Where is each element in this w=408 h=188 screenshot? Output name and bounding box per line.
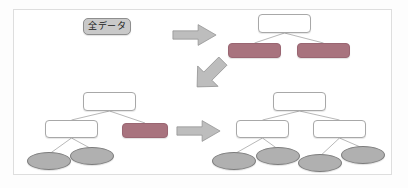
tree-node [236, 120, 289, 138]
flow-arrow-right [176, 118, 221, 144]
tree-node-highlighted [122, 123, 168, 138]
tree-leaf-node [27, 152, 71, 170]
tree-node [83, 92, 136, 111]
tree-node [258, 14, 311, 33]
tree-leaf-node [212, 152, 256, 170]
tree-leaf-node [298, 154, 342, 172]
tree-leaf-node [341, 146, 385, 164]
flow-arrow-down-left [191, 56, 229, 92]
tree-node [313, 120, 366, 138]
all-data-label: 全データ [83, 18, 131, 35]
diagram-canvas: 全データ [0, 0, 408, 188]
flow-arrow-right [172, 22, 217, 48]
tree-node [273, 92, 326, 111]
tree-leaf-node [70, 147, 114, 165]
tree-node [45, 120, 98, 138]
tree-node-highlighted [297, 43, 350, 58]
tree-node-highlighted [228, 43, 281, 58]
tree-leaf-node [256, 147, 300, 165]
